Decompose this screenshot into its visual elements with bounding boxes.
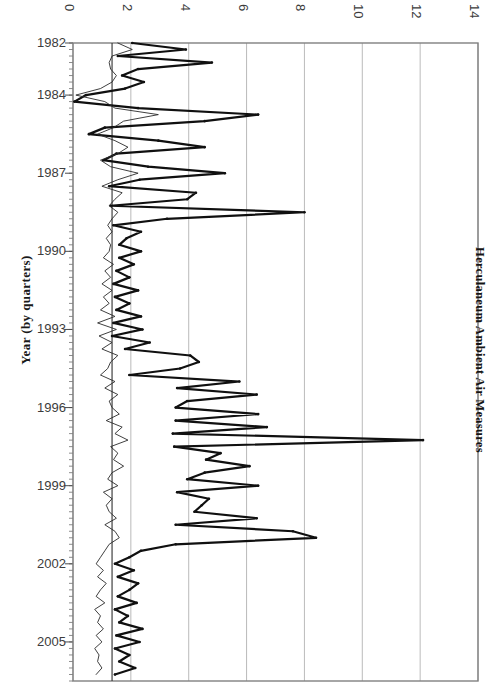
x-tick-0: 0: [61, 4, 79, 11]
x-tick-label: 6: [236, 4, 251, 11]
y-tick-1999: 1999: [18, 478, 66, 493]
x-tick-8: 8: [292, 4, 310, 11]
x-tick-label: 0: [62, 4, 77, 11]
x-tick-10: 10: [350, 4, 368, 18]
y-axis-label-text: Year (by quarters): [18, 255, 33, 365]
x-tick-14: 14: [466, 4, 484, 18]
y-tick-1996: 1996: [18, 400, 66, 415]
y-axis-label: Year (by quarters): [16, 240, 36, 380]
x-tick-4: 4: [177, 4, 195, 11]
y-tick-1990: 1990: [18, 243, 66, 258]
x-tick-label: 14: [467, 4, 482, 18]
x-tick-2: 2: [119, 4, 137, 11]
y-tick-2002: 2002: [18, 556, 66, 571]
y-tick-1982: 1982: [18, 35, 66, 50]
y-tick-1987: 1987: [18, 165, 66, 180]
x-tick-label: 4: [178, 4, 193, 11]
y-tick-2005: 2005: [18, 634, 66, 649]
x-tick-label: 10: [351, 4, 366, 18]
x-tick-label: 2: [120, 4, 135, 11]
x-tick-label: 12: [409, 4, 424, 18]
x-tick-label: 8: [293, 4, 308, 11]
chart-figure: Year (by quarters) Herculaneum Ambient A…: [0, 0, 501, 697]
chart-title: Herculaneum Ambient Air Measures: [470, 225, 490, 475]
x-tick-12: 12: [408, 4, 426, 18]
data-series: [73, 42, 424, 676]
y-tick-1984: 1984: [18, 87, 66, 102]
y-tick-1993: 1993: [18, 321, 66, 336]
x-tick-6: 6: [235, 4, 253, 11]
chart-title-text: Herculaneum Ambient Air Measures: [473, 247, 487, 453]
chart-plot-area: [0, 0, 501, 697]
